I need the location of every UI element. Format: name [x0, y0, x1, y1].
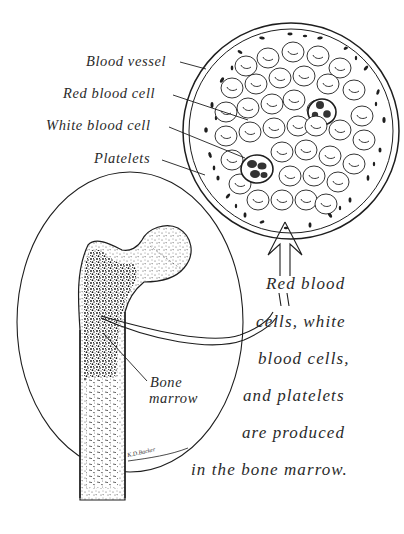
bone-region-outline: [17, 172, 243, 472]
femur-bone: [78, 226, 191, 500]
label-white-blood-cell: White blood cell: [46, 117, 151, 134]
caption-line-5: are produced: [242, 423, 345, 443]
caption-line-2: cells, white: [256, 312, 346, 332]
caption-line-1: Red blood: [266, 274, 345, 294]
white-blood-cell-1: [241, 155, 273, 183]
label-bone-marrow-line1: Bone: [150, 374, 182, 391]
caption-line-4: and platelets: [243, 386, 345, 406]
blood-vessel-cross-section: [183, 23, 399, 239]
caption-line-6: in the bone marrow.: [191, 460, 348, 480]
label-bone-marrow-line2: marrow: [149, 390, 198, 407]
marrow-to-caption-pointer: [101, 312, 276, 345]
caption-line-3: blood cells,: [258, 349, 350, 369]
diagram-canvas: [0, 0, 404, 534]
label-blood-vessel: Blood vessel: [86, 53, 166, 70]
label-red-blood-cell: Red blood cell: [63, 85, 155, 102]
illustration-page: Blood vessel Red blood cell White blood …: [0, 0, 404, 534]
label-platelets: Platelets: [94, 150, 150, 167]
